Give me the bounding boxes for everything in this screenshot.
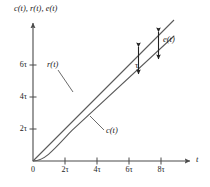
c-label-leader	[90, 116, 104, 130]
plot-canvas	[0, 0, 210, 187]
y-tick-label: 4τ	[13, 93, 27, 101]
ramp-response-figure: c(t), r(t), e(t) t r(t) c(t) e(t) τ 0 2τ…	[0, 0, 210, 187]
curve-c	[33, 36, 174, 161]
r-curve-label: r(t)	[47, 60, 58, 69]
curve-r	[33, 20, 174, 161]
c-curve-label: c(t)	[106, 126, 118, 135]
y-tick-label: 2τ	[13, 125, 27, 133]
x-tick-label: 8τ	[157, 166, 164, 174]
x-axis-label: t	[196, 155, 198, 164]
error-label: e(t)	[163, 35, 175, 44]
tau-label: τ	[135, 61, 138, 70]
y-axis-label: c(t), r(t), e(t)	[14, 4, 57, 13]
x-tick-label: 4τ	[93, 166, 100, 174]
x-tick-label: 2τ	[61, 166, 68, 174]
y-tick-label: 6τ	[13, 61, 27, 69]
r-label-leader	[58, 70, 73, 92]
origin-tick-label: 0	[31, 166, 35, 174]
x-tick-label: 6τ	[125, 166, 132, 174]
